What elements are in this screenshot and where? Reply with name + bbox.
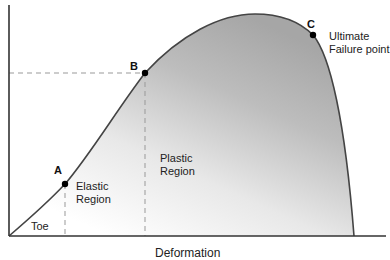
ultimate-label-line1: Ultimate bbox=[329, 30, 369, 43]
toe-region-label: Toe bbox=[31, 220, 49, 233]
ultimate-label-line2: Failure point bbox=[329, 43, 390, 56]
x-axis-title: Deformation bbox=[155, 246, 220, 260]
point-c-label: C bbox=[307, 18, 315, 30]
point-b-marker bbox=[142, 70, 148, 76]
plastic-region-label-line1: Plastic bbox=[160, 152, 192, 165]
elastic-region-label-line1: Elastic bbox=[76, 180, 108, 193]
elastic-region-label-line2: Region bbox=[76, 193, 111, 206]
point-b-label: B bbox=[130, 60, 138, 72]
point-a-marker bbox=[62, 181, 68, 187]
area-under-curve bbox=[9, 14, 354, 236]
point-c-marker bbox=[310, 32, 316, 38]
point-a-label: A bbox=[54, 164, 62, 176]
plastic-region-label-line2: Region bbox=[160, 165, 195, 178]
